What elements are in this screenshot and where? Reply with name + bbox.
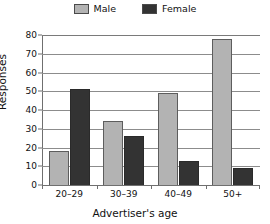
bar-female-2	[179, 161, 199, 185]
legend-label-male: Male	[94, 4, 117, 14]
bar-male-3	[212, 39, 232, 185]
y-tick-label-0: 0	[31, 180, 37, 190]
x-axis-title: Advertiser's age	[0, 207, 270, 219]
legend-swatch-female	[142, 4, 157, 14]
bar-female-3	[233, 168, 253, 185]
y-tick-label-70: 70	[26, 49, 37, 59]
bar-group	[42, 35, 97, 185]
bar-groups	[42, 35, 260, 185]
plot-area: 01020304050607080 20–2930–3940–4950+	[42, 35, 260, 185]
legend-label-female: Female	[162, 4, 196, 14]
bar-group	[151, 35, 206, 185]
x-tick-mark-3	[206, 185, 207, 189]
bar-female-1	[124, 136, 144, 185]
bar-male-2	[158, 93, 178, 185]
y-tick-label-40: 40	[26, 105, 37, 115]
x-tick-mark-0	[42, 185, 43, 189]
y-tick-label-60: 60	[26, 68, 37, 78]
x-category-label-0: 20–29	[56, 189, 83, 199]
y-tick-label-30: 30	[26, 124, 37, 134]
bar-group	[206, 35, 261, 185]
legend-item-male: Male	[74, 4, 117, 14]
bar-group	[97, 35, 152, 185]
x-tick-mark-1	[97, 185, 98, 189]
x-category-label-1: 30–39	[110, 189, 137, 199]
bar-male-0	[49, 151, 69, 185]
bar-female-0	[70, 89, 90, 185]
bar-chart: Male Female Responses 01020304050607080 …	[0, 0, 270, 224]
y-tick-label-80: 80	[26, 30, 37, 40]
y-tick-label-10: 10	[26, 161, 37, 171]
legend-item-female: Female	[142, 4, 196, 14]
x-tick-mark-4	[259, 185, 260, 189]
y-tick-label-20: 20	[26, 143, 37, 153]
x-category-label-3: 50+	[223, 189, 242, 199]
x-category-label-2: 40–49	[165, 189, 192, 199]
bar-male-1	[103, 121, 123, 185]
chart-legend: Male Female	[0, 4, 270, 14]
x-tick-mark-2	[151, 185, 152, 189]
y-tick-label-50: 50	[26, 86, 37, 96]
legend-swatch-male	[74, 4, 89, 14]
y-axis-title: Responses	[0, 54, 8, 110]
